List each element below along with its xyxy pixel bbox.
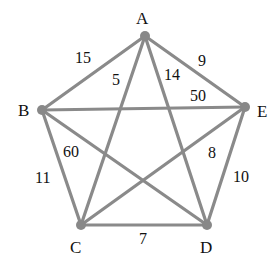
edge-weight-c-e: 8 <box>208 144 216 161</box>
node-label-b: B <box>18 101 29 120</box>
edge-a-b <box>42 36 145 110</box>
edge-weight-b-e: 50 <box>190 87 206 104</box>
edge-weight-a-d: 14 <box>164 66 180 83</box>
edge-weight-d-e: 10 <box>233 168 249 185</box>
weighted-graph-diagram: 1551495060118710 ABCDE <box>0 0 278 259</box>
node-a <box>140 31 150 41</box>
edge-b-e <box>42 107 245 110</box>
edge-c-e <box>81 107 245 225</box>
node-label-e: E <box>257 102 267 121</box>
node-label-a: A <box>136 9 149 28</box>
node-e <box>240 102 250 112</box>
edges-layer <box>42 36 245 225</box>
edge-d-e <box>207 107 245 225</box>
edge-weight-a-e: 9 <box>198 52 206 69</box>
node-label-d: D <box>200 238 212 257</box>
edge-b-d <box>42 110 207 225</box>
edge-weight-b-c: 11 <box>35 169 50 186</box>
node-c <box>76 220 86 230</box>
edge-weights-layer: 1551495060118710 <box>35 49 249 247</box>
edge-weight-c-d: 7 <box>139 230 147 247</box>
edge-weight-b-d: 60 <box>63 143 79 160</box>
edge-weight-a-c: 5 <box>112 71 120 88</box>
node-b <box>37 105 47 115</box>
edge-b-c <box>42 110 81 225</box>
edge-weight-a-b: 15 <box>75 49 91 66</box>
node-label-c: C <box>70 238 81 257</box>
node-d <box>202 220 212 230</box>
